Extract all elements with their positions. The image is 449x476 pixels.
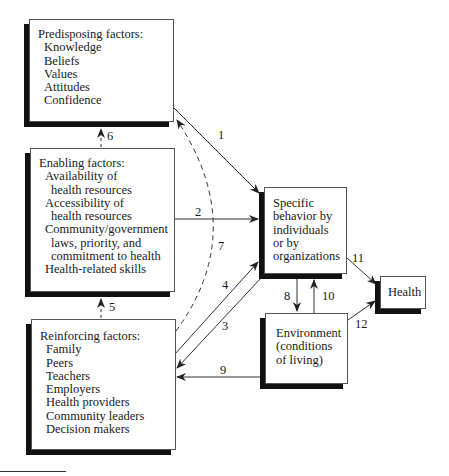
arrow-label-6: 6 bbox=[107, 130, 113, 143]
enabling-line: Accessibility of bbox=[39, 197, 174, 210]
reinforcing-item: Community leaders bbox=[40, 410, 175, 423]
predisposing-item: Attitudes bbox=[38, 81, 173, 94]
arrow-label-1: 1 bbox=[218, 129, 224, 142]
environment-line: (conditions bbox=[276, 340, 347, 353]
enabling-line: health resources bbox=[39, 184, 174, 197]
predisposing-item: Beliefs bbox=[38, 55, 173, 68]
health-label: Health bbox=[388, 286, 425, 299]
predisposing-item: Confidence bbox=[38, 94, 173, 107]
reinforcing-item: Teachers bbox=[40, 370, 175, 383]
arrow-7 bbox=[176, 120, 213, 331]
arrow-label-11: 11 bbox=[352, 252, 364, 265]
enabling-line: commitment to health bbox=[39, 250, 174, 263]
behavior-line: Specific bbox=[273, 197, 346, 210]
reinforcing-title: Reinforcing factors: bbox=[40, 330, 175, 343]
enabling-line: Community/government bbox=[39, 223, 174, 236]
reinforcing-item: Family bbox=[40, 343, 175, 356]
behavior-line: or by bbox=[273, 237, 346, 250]
arrow-4 bbox=[175, 262, 258, 354]
arrow-label-7: 7 bbox=[218, 240, 224, 253]
reinforcing-item: Peers bbox=[40, 357, 175, 370]
behavior-line: organizations bbox=[273, 250, 346, 263]
enabling-title: Enabling factors: bbox=[39, 157, 174, 170]
predisposing-title: Predisposing factors: bbox=[38, 28, 173, 41]
reinforcing-item: Decision makers bbox=[40, 423, 175, 436]
arrow-label-4: 4 bbox=[222, 279, 228, 292]
footnote-rule bbox=[0, 471, 66, 472]
predisposing-item: Values bbox=[38, 68, 173, 81]
enabling-line: Availability of bbox=[39, 170, 174, 183]
environment-box: Environment (conditions of living) bbox=[265, 313, 348, 384]
arrow-label-12: 12 bbox=[355, 318, 368, 331]
arrow-1 bbox=[174, 108, 259, 193]
enabling-line: health resources bbox=[39, 210, 174, 223]
arrow-label-10: 10 bbox=[322, 290, 335, 303]
environment-line: Environment bbox=[276, 327, 347, 340]
reinforcing-factors-box: Reinforcing factors: Family Peers Teache… bbox=[31, 319, 176, 450]
predisposing-item: Knowledge bbox=[38, 41, 173, 54]
arrow-label-5: 5 bbox=[109, 301, 115, 314]
arrow-3 bbox=[177, 278, 261, 368]
reinforcing-item: Employers bbox=[40, 383, 175, 396]
arrow-label-8: 8 bbox=[284, 290, 290, 303]
enabling-factors-box: Enabling factors: Availability of health… bbox=[30, 148, 175, 292]
arrow-label-3: 3 bbox=[222, 320, 228, 333]
enabling-line: laws, priority, and bbox=[39, 237, 174, 250]
environment-line: of living) bbox=[276, 354, 347, 367]
arrow-label-2: 2 bbox=[195, 206, 201, 219]
arrow-label-9: 9 bbox=[220, 364, 226, 377]
enabling-line: Health-related skills bbox=[39, 263, 174, 276]
specific-behavior-box: Specific behavior by individuals or by o… bbox=[264, 187, 347, 274]
health-box: Health bbox=[380, 276, 426, 309]
behavior-line: individuals bbox=[273, 224, 346, 237]
predisposing-factors-box: Predisposing factors: Knowledge Beliefs … bbox=[29, 19, 174, 122]
reinforcing-item: Health providers bbox=[40, 396, 175, 409]
behavior-line: behavior by bbox=[273, 210, 346, 223]
